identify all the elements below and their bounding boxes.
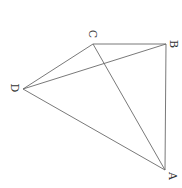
diagram-edges <box>23 44 166 170</box>
segment-AC <box>93 44 165 170</box>
segment-AB <box>165 44 166 170</box>
segment-DB <box>23 44 166 89</box>
point-label-B: B <box>167 40 180 48</box>
segment-DA <box>23 89 165 170</box>
point-label-A: A <box>166 171 179 181</box>
point-label-D: D <box>8 84 21 93</box>
segment-CD <box>23 44 93 89</box>
diagram-labels: ABCD <box>8 30 180 181</box>
point-label-C: C <box>86 30 99 38</box>
geometry-diagram: ABCD <box>0 0 182 188</box>
